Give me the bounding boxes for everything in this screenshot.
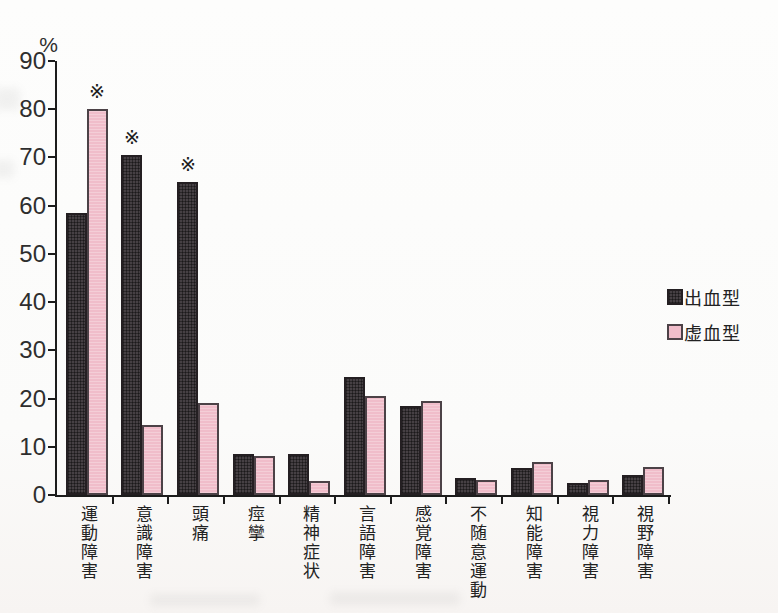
bar-isch-視野障害 bbox=[643, 467, 664, 495]
bar-isch-痙攣 bbox=[254, 456, 275, 495]
y-axis-tick bbox=[48, 60, 55, 62]
y-axis-tick-label: 30 bbox=[0, 336, 46, 364]
x-axis-category-label: 知能障害 bbox=[523, 505, 541, 581]
x-axis-tick bbox=[167, 497, 169, 504]
bar-hem-運動障害 bbox=[66, 213, 87, 495]
bar-isch-感覚障害 bbox=[421, 401, 442, 495]
legend: 出血型 虚血型 bbox=[667, 284, 741, 345]
scan-artifact bbox=[150, 594, 260, 606]
bar-hem-不随意運動 bbox=[455, 478, 476, 495]
scan-artifact bbox=[330, 592, 460, 605]
chart-figure: % 0102030405060708090※※※ 出血型 虚血型 運動障害意識障… bbox=[0, 0, 778, 613]
bar-hem-言語障害 bbox=[344, 377, 365, 495]
y-axis-tick-label: 90 bbox=[0, 47, 46, 75]
x-axis-tick bbox=[668, 497, 670, 504]
ischemic-swatch-icon bbox=[667, 324, 683, 340]
bar-hem-精神症状 bbox=[288, 454, 309, 495]
y-axis-tick bbox=[48, 253, 55, 255]
x-axis-tick bbox=[445, 497, 447, 504]
x-axis-tick bbox=[612, 497, 614, 504]
y-axis-tick-label: 20 bbox=[0, 385, 46, 413]
bar-isch-不随意運動 bbox=[476, 480, 497, 495]
x-axis-category-label: 不随意運動 bbox=[467, 505, 485, 600]
x-axis-tick bbox=[223, 497, 225, 504]
x-axis-category-label: 視力障害 bbox=[579, 505, 597, 581]
x-axis-category-label: 言語障害 bbox=[356, 505, 374, 581]
y-axis-tick bbox=[48, 205, 55, 207]
bar-isch-精神症状 bbox=[309, 481, 330, 495]
y-axis-tick bbox=[48, 446, 55, 448]
legend-label: 出血型 bbox=[684, 284, 741, 310]
y-axis-tick-label: 10 bbox=[0, 433, 46, 461]
significance-mark: ※ bbox=[117, 128, 147, 147]
hemorrhagic-swatch-icon bbox=[667, 289, 683, 305]
significance-mark: ※ bbox=[173, 155, 203, 174]
y-axis-tick bbox=[48, 349, 55, 351]
plot-area bbox=[57, 61, 669, 495]
legend-item-ischemic: 虚血型 bbox=[667, 319, 741, 345]
x-axis-category-label: 痙攣 bbox=[245, 505, 263, 543]
legend-item-hemorrhagic: 出血型 bbox=[667, 284, 741, 310]
y-axis-tick bbox=[48, 108, 55, 110]
x-axis-category-label: 精神症状 bbox=[300, 505, 318, 581]
significance-mark: ※ bbox=[82, 82, 112, 101]
x-axis-tick bbox=[279, 497, 281, 504]
y-axis-tick-label: 40 bbox=[0, 288, 46, 316]
x-axis-category-label: 意識障害 bbox=[133, 505, 151, 581]
bar-hem-視力障害 bbox=[567, 483, 588, 495]
bar-isch-意識障害 bbox=[142, 425, 163, 495]
x-axis-category-label: 視野障害 bbox=[634, 505, 652, 581]
y-axis-tick-label: 0 bbox=[0, 481, 46, 509]
bar-isch-頭痛 bbox=[198, 403, 219, 495]
bar-isch-視力障害 bbox=[588, 480, 609, 495]
x-axis-tick bbox=[390, 497, 392, 504]
y-axis-tick bbox=[48, 494, 55, 496]
bar-hem-意識障害 bbox=[121, 155, 142, 495]
x-axis-category-label: 運動障害 bbox=[78, 505, 96, 581]
y-axis-tick-label: 60 bbox=[0, 192, 46, 220]
y-axis-tick-label: 80 bbox=[0, 95, 46, 123]
x-axis-tick bbox=[112, 497, 114, 504]
bar-hem-頭痛 bbox=[177, 182, 198, 495]
y-axis-tick-label: 70 bbox=[0, 143, 46, 171]
y-axis-tick bbox=[48, 156, 55, 158]
bar-isch-言語障害 bbox=[365, 396, 386, 495]
bar-hem-痙攣 bbox=[233, 454, 254, 495]
bar-hem-視野障害 bbox=[622, 475, 643, 495]
x-axis-line bbox=[55, 495, 671, 497]
y-axis-tick-label: 50 bbox=[0, 240, 46, 268]
x-axis-tick bbox=[334, 497, 336, 504]
y-axis-tick bbox=[48, 398, 55, 400]
x-axis-category-label: 感覚障害 bbox=[412, 505, 430, 581]
x-axis-tick bbox=[501, 497, 503, 504]
bar-hem-知能障害 bbox=[511, 468, 532, 495]
bar-hem-感覚障害 bbox=[400, 406, 421, 495]
x-axis-tick bbox=[557, 497, 559, 504]
x-axis-category-label: 頭痛 bbox=[189, 505, 207, 543]
legend-label: 虚血型 bbox=[684, 319, 741, 345]
y-axis-tick bbox=[48, 301, 55, 303]
bar-isch-運動障害 bbox=[87, 109, 108, 495]
bar-isch-知能障害 bbox=[532, 462, 553, 495]
